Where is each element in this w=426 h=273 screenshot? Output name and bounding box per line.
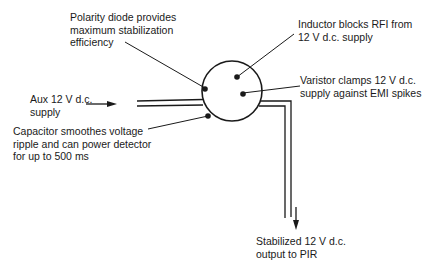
pin-dot-inductor — [234, 74, 240, 80]
label-varistor: Varistor clamps 12 V d.c. supply against… — [300, 74, 421, 99]
label-line: Stabilized 12 V d.c. — [256, 235, 346, 248]
leader-inductor — [237, 34, 294, 77]
leader-polarity-diode — [125, 42, 205, 88]
label-line: for up to 500 ms — [13, 150, 151, 163]
label-capacitor: Capacitor smoothes voltage ripple and ca… — [13, 125, 151, 163]
leader-capacitor — [148, 116, 208, 129]
output-arrowhead-icon — [293, 220, 299, 230]
label-line: Inductor blocks RFI from — [298, 18, 412, 31]
label-line: Polarity diode provides — [70, 11, 176, 24]
label-line: efficiency — [70, 36, 176, 49]
label-line: maximum stabilization — [70, 24, 176, 37]
label-line: ripple and can power detector — [13, 138, 151, 151]
input-wire-2 — [137, 105, 203, 106]
label-aux-supply: Aux 12 V d.c. supply — [30, 93, 92, 118]
aux-arrowhead-icon — [107, 101, 117, 107]
input-wire-1 — [137, 100, 203, 102]
output-wire-2 — [259, 106, 285, 218]
label-inductor: Inductor blocks RFI from 12 V d.c. suppl… — [298, 18, 412, 43]
output-wire-1 — [260, 101, 291, 217]
pin-dot-polarity-diode — [202, 86, 208, 92]
pin-dot-varistor — [240, 91, 246, 97]
label-output: Stabilized 12 V d.c. output to PIR — [256, 235, 346, 260]
leader-varistor — [243, 86, 300, 93]
diagram: Polarity diode provides maximum stabiliz… — [0, 0, 426, 273]
label-line: supply against EMI spikes — [300, 87, 421, 100]
label-line: Capacitor smoothes voltage — [13, 125, 151, 138]
label-polarity-diode: Polarity diode provides maximum stabiliz… — [70, 11, 176, 49]
label-line: Aux 12 V d.c. — [30, 93, 92, 106]
label-line: 12 V d.c. supply — [298, 31, 412, 44]
label-line: Varistor clamps 12 V d.c. — [300, 74, 421, 87]
pin-dot-capacitor — [205, 113, 211, 119]
component-circle — [202, 61, 262, 121]
label-line: supply — [30, 106, 92, 119]
label-line: output to PIR — [256, 248, 346, 261]
